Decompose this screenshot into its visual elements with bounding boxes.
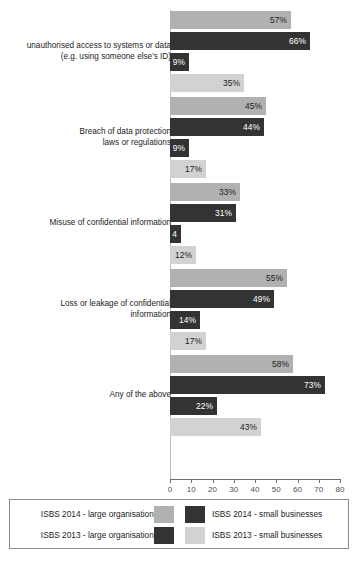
bar-value-label: 14% — [179, 315, 196, 325]
bar-row: 9% — [0, 53, 358, 71]
x-axis-tick-label: 60 — [293, 485, 302, 494]
bar-isbs-2014-small[interactable]: 73% — [170, 376, 325, 394]
bar-row: 66% — [0, 32, 358, 50]
x-axis-tick — [191, 479, 192, 483]
bar-row: 33% — [0, 183, 358, 201]
x-axis-tick — [276, 479, 277, 483]
legend-row: ISBS 2013 - large organisationsISBS 2013… — [10, 525, 348, 545]
bar-value-label: 58% — [272, 359, 289, 369]
bar-row: 31% — [0, 204, 358, 222]
plot-area: unauthorised access to systems or data (… — [0, 0, 358, 492]
bar-row: 9% — [0, 139, 358, 157]
bar-row: 17% — [0, 332, 358, 350]
bar-group: Breach of data protection laws or regula… — [0, 97, 358, 178]
x-axis-tick-label: 30 — [229, 485, 238, 494]
bar-isbs-2013-large[interactable]: 9% — [170, 139, 189, 157]
bar-value-label: 44% — [243, 122, 260, 132]
x-axis-tick-label: 40 — [251, 485, 260, 494]
bar-isbs-2013-large[interactable]: 9% — [170, 53, 189, 71]
bar-isbs-2014-small[interactable]: 44% — [170, 118, 264, 136]
x-axis-tick-label: 70 — [314, 485, 323, 494]
bar-row: 44% — [0, 118, 358, 136]
bar-row: 17% — [0, 160, 358, 178]
bar-row: 35% — [0, 74, 358, 92]
legend-swatch-right — [185, 506, 205, 523]
bar-isbs-2014-large[interactable]: 33% — [170, 183, 240, 201]
bar-group: Any of the above58%73%22%43% — [0, 355, 358, 436]
bar-isbs-2014-small[interactable]: 49% — [170, 290, 274, 308]
bar-value-label: 17% — [185, 336, 202, 346]
bar-row: 4 — [0, 225, 358, 243]
legend-swatch-right — [185, 527, 205, 544]
bar-value-label: 57% — [270, 15, 287, 25]
legend-swatch-left — [154, 527, 174, 544]
bar-row: 43% — [0, 418, 358, 436]
bar-isbs-2013-large[interactable]: 14% — [170, 311, 200, 329]
bar-row: 58% — [0, 355, 358, 373]
x-axis-tick — [170, 479, 171, 483]
bar-value-label: 43% — [240, 422, 257, 432]
bar-isbs-2014-small[interactable]: 31% — [170, 204, 236, 222]
bar-row: 22% — [0, 397, 358, 415]
bar-group: unauthorised access to systems or data (… — [0, 11, 358, 92]
bar-value-label: 49% — [253, 294, 270, 304]
bar-isbs-2014-large[interactable]: 45% — [170, 97, 266, 115]
bar-isbs-2014-large[interactable]: 55% — [170, 269, 287, 287]
bar-row: 49% — [0, 290, 358, 308]
legend-label-right: ISBS 2014 - small businesses — [212, 509, 322, 519]
x-axis-tick — [213, 479, 214, 483]
x-axis-tick-label: 20 — [208, 485, 217, 494]
legend-label-right: ISBS 2013 - small businesses — [212, 530, 322, 540]
x-axis-tick — [255, 479, 256, 483]
bar-value-label: 45% — [245, 101, 262, 111]
bar-groups-container: unauthorised access to systems or data (… — [0, 11, 358, 436]
bar-value-label: 31% — [215, 208, 232, 218]
x-axis: 01020304050607080 — [170, 479, 340, 480]
bar-isbs-2013-small[interactable]: 12% — [170, 246, 196, 264]
x-axis-tick — [234, 479, 235, 483]
bar-isbs-2014-large[interactable]: 57% — [170, 11, 291, 29]
bar-isbs-2013-small[interactable]: 17% — [170, 332, 206, 350]
legend-row: ISBS 2014 - large organisationsISBS 2014… — [10, 504, 348, 524]
bar-isbs-2013-large[interactable]: 22% — [170, 397, 217, 415]
x-axis-tick — [298, 479, 299, 483]
bar-value-label: 9% — [173, 57, 185, 67]
bar-isbs-2014-small[interactable]: 66% — [170, 32, 310, 50]
bar-isbs-2013-small[interactable]: 35% — [170, 74, 244, 92]
bar-value-label: 4 — [172, 229, 177, 239]
x-axis-tick-label: 10 — [187, 485, 196, 494]
bar-group: Loss or leakage of confidential informat… — [0, 269, 358, 350]
bar-row: 14% — [0, 311, 358, 329]
grouped-bar-chart: unauthorised access to systems or data (… — [0, 0, 358, 562]
bar-value-label: 9% — [173, 143, 185, 153]
x-axis-tick — [319, 479, 320, 483]
bar-isbs-2013-large[interactable]: 4 — [170, 225, 181, 243]
bar-row: 45% — [0, 97, 358, 115]
bar-row: 57% — [0, 11, 358, 29]
bar-row: 55% — [0, 269, 358, 287]
bar-row: 73% — [0, 376, 358, 394]
legend-swatch-left — [154, 506, 174, 523]
x-axis-tick-label: 50 — [272, 485, 281, 494]
bar-value-label: 73% — [304, 380, 321, 390]
bar-isbs-2013-small[interactable]: 43% — [170, 418, 261, 436]
bar-group: Misuse of confidential information33%31%… — [0, 183, 358, 264]
legend-label-left: ISBS 2014 - large organisations — [41, 509, 158, 519]
bar-value-label: 33% — [219, 187, 236, 197]
bar-value-label: 66% — [289, 36, 306, 46]
bar-value-label: 55% — [266, 273, 283, 283]
chart-legend: ISBS 2014 - large organisationsISBS 2014… — [9, 499, 349, 549]
bar-value-label: 35% — [223, 78, 240, 88]
bar-value-label: 12% — [175, 250, 192, 260]
legend-label-left: ISBS 2013 - large organisations — [41, 530, 158, 540]
x-axis-tick-label: 0 — [168, 485, 172, 494]
x-axis-tick-label: 80 — [336, 485, 345, 494]
bar-isbs-2013-small[interactable]: 17% — [170, 160, 206, 178]
x-axis-tick — [340, 479, 341, 483]
bar-row: 12% — [0, 246, 358, 264]
bar-isbs-2014-large[interactable]: 58% — [170, 355, 293, 373]
bar-value-label: 22% — [196, 401, 213, 411]
bar-value-label: 17% — [185, 164, 202, 174]
